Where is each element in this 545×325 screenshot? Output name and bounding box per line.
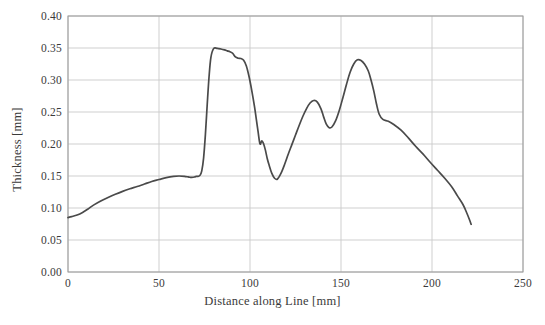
y-tick-label: 0.15 bbox=[22, 170, 62, 182]
thickness-profile-chart: 0.000.050.100.150.200.250.300.350.40 050… bbox=[0, 0, 545, 325]
y-tick-label: 0.10 bbox=[22, 202, 62, 214]
y-tick-label: 0.25 bbox=[22, 106, 62, 118]
x-tick-label: 150 bbox=[332, 277, 350, 289]
y-tick-label: 0.30 bbox=[22, 74, 62, 86]
x-tick-label: 50 bbox=[153, 277, 165, 289]
y-tick-label: 0.05 bbox=[22, 234, 62, 246]
x-tick-label: 200 bbox=[423, 277, 441, 289]
y-tick-label: 0.40 bbox=[22, 10, 62, 22]
x-tick-label: 250 bbox=[514, 277, 532, 289]
y-tick-label: 0.35 bbox=[22, 42, 62, 54]
x-axis-title: Distance along Line [mm] bbox=[0, 294, 545, 309]
y-tick-label: 0.20 bbox=[22, 138, 62, 150]
y-axis-title: Thickness [mm] bbox=[10, 85, 25, 215]
x-tick-label: 0 bbox=[65, 277, 71, 289]
y-tick-label: 0.00 bbox=[22, 266, 62, 278]
chart-plot-svg bbox=[0, 0, 545, 325]
x-tick-label: 100 bbox=[241, 277, 259, 289]
